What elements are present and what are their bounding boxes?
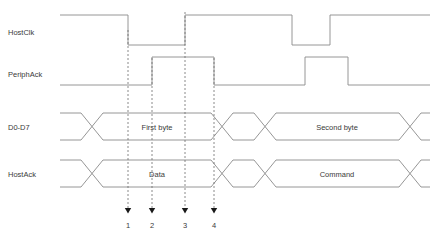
bus-waveform-hostack-rail-lower [60, 160, 430, 187]
marker-number-3: 3 [183, 221, 187, 230]
timing-diagram: HostClkPeriphAckD0-D7HostAck First byteS… [0, 0, 430, 240]
bus-waveform-hostack-rail-upper [60, 160, 430, 187]
marker-arrowhead-1 [125, 208, 131, 214]
marker-number-1: 1 [126, 221, 130, 230]
marker-arrowhead-3 [182, 208, 188, 214]
signal-name-label-group: HostClkPeriphAckD0-D7HostAck [8, 28, 42, 179]
signal-label-periphack: PeriphAck [8, 70, 42, 79]
signal-label-d0-d7: D0-D7 [8, 123, 30, 132]
bus-segment-label-hostack-1: Data [149, 170, 166, 179]
signal-label-hostack: HostAck [8, 170, 36, 179]
marker-arrowhead-4 [211, 208, 217, 214]
waveform-hostclk [60, 15, 430, 45]
marker-number-4: 4 [212, 221, 216, 230]
waveform-group [60, 15, 430, 187]
marker-arrowhead-2 [149, 208, 155, 214]
bus-segment-label-hostack-3: Command [320, 170, 355, 179]
bus-segment-label-d0-d7-3: Second byte [316, 123, 358, 132]
timing-diagram-canvas: HostClkPeriphAckD0-D7HostAck First byteS… [0, 0, 430, 240]
bus-segment-label-d0-d7-1: First byte [142, 123, 173, 132]
marker-number-2: 2 [150, 221, 154, 230]
signal-label-hostclk: HostClk [8, 28, 35, 37]
bus-waveform-d0-d7-rail-upper [60, 113, 430, 140]
bus-waveform-d0-d7-rail-lower [60, 113, 430, 140]
bus-segment-label-group: First byteSecond byteDataCommand [142, 123, 358, 179]
waveform-periphack [60, 57, 430, 85]
